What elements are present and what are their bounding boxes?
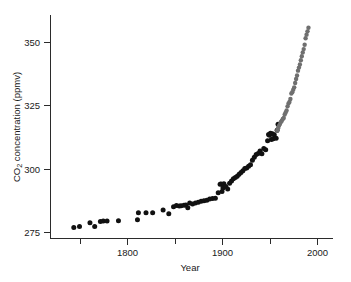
data-point — [185, 205, 190, 210]
data-point — [248, 162, 253, 167]
data-point — [295, 73, 299, 77]
data-point — [105, 219, 110, 224]
data-point — [87, 220, 92, 225]
data-point — [274, 136, 279, 141]
y-tick-label-300: 300 — [24, 164, 40, 175]
y-tick-label-350: 350 — [24, 37, 40, 48]
data-point — [213, 196, 218, 201]
data-point — [292, 85, 296, 89]
data-point — [71, 225, 76, 230]
data-point — [77, 224, 82, 229]
data-point — [136, 210, 141, 215]
data-point — [225, 186, 230, 191]
y-tick-label-325: 325 — [24, 100, 40, 111]
data-point — [263, 147, 268, 152]
data-point — [298, 62, 302, 66]
x-axis-title: Year — [180, 262, 199, 273]
data-point — [259, 151, 264, 156]
chart-figure: 275300325350 180019002000 Year CO2 conce… — [0, 0, 351, 282]
x-tick-label-2000: 2000 — [307, 247, 328, 258]
data-point — [300, 54, 304, 58]
data-point — [161, 207, 166, 212]
data-point — [135, 217, 140, 222]
x-tick-label-1800: 1800 — [117, 247, 138, 258]
data-point — [166, 211, 171, 216]
data-point — [92, 224, 97, 229]
data-point — [288, 97, 292, 101]
x-tick-label-1900: 1900 — [212, 247, 233, 258]
data-point — [306, 26, 310, 30]
data-point — [299, 58, 303, 62]
data-point — [150, 210, 155, 215]
co2-scatter-plot: 275300325350 180019002000 Year CO2 conce… — [0, 0, 351, 282]
data-point — [284, 108, 288, 112]
data-point — [116, 218, 121, 223]
data-point — [293, 81, 297, 85]
data-point — [302, 47, 306, 51]
data-point — [302, 43, 306, 47]
y-tick-label-275: 275 — [24, 227, 40, 238]
data-point — [144, 210, 149, 215]
